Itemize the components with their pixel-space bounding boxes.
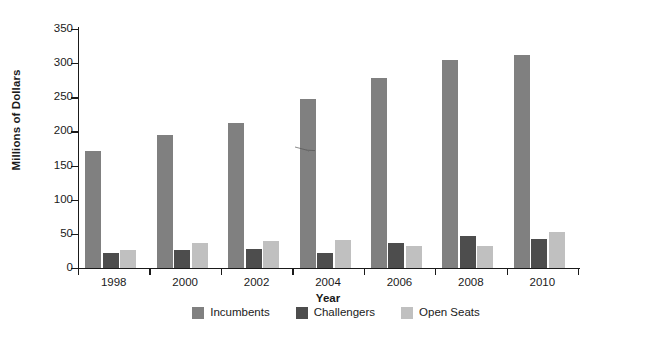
legend-item: Open Seats — [401, 307, 480, 319]
x-tick-label: 2004 — [315, 277, 341, 289]
bar — [514, 55, 530, 268]
legend-label: Challengers — [314, 307, 375, 319]
bar — [549, 232, 565, 268]
legend-item: Challengers — [296, 307, 375, 319]
y-tick-label: 150 — [54, 160, 73, 172]
bar — [477, 246, 493, 268]
bar — [120, 250, 136, 268]
bar — [460, 236, 476, 268]
bar — [157, 135, 173, 268]
x-tick-mark — [578, 268, 579, 275]
x-tick-mark — [507, 268, 508, 275]
x-tick-label: 2002 — [244, 277, 270, 289]
x-tick-mark — [364, 268, 365, 275]
chart-legend: IncumbentsChallengersOpen Seats — [0, 307, 672, 319]
x-tick-label: 1998 — [101, 277, 127, 289]
bar-chart-figure: Millions of Dollars 05010015020025030035… — [0, 0, 672, 344]
bar — [371, 78, 387, 268]
x-tick-label: 2010 — [529, 277, 555, 289]
x-axis-line — [78, 268, 580, 269]
bar — [442, 60, 458, 268]
bar — [85, 151, 101, 268]
bar — [406, 246, 422, 268]
bar — [335, 240, 351, 268]
bar — [103, 253, 119, 268]
x-tick-mark — [221, 268, 222, 275]
legend-swatch — [401, 307, 413, 319]
y-tick-label: 200 — [54, 126, 73, 138]
y-tick-label: 350 — [54, 23, 73, 35]
bar — [192, 243, 208, 268]
bar — [174, 250, 190, 268]
x-tick-mark — [149, 268, 150, 275]
legend-label: Incumbents — [210, 307, 269, 319]
bar — [388, 243, 404, 268]
y-tick-label: 100 — [54, 194, 73, 206]
x-axis-title: Year — [78, 292, 578, 304]
bar — [317, 253, 333, 268]
y-tick-label: 0 — [67, 262, 73, 274]
bar — [246, 249, 262, 268]
bar — [531, 239, 547, 268]
legend-label: Open Seats — [419, 307, 480, 319]
y-axis-title-text: Millions of Dollars — [10, 69, 22, 170]
x-tick-label: 2000 — [172, 277, 198, 289]
y-tick-label: 50 — [60, 228, 73, 240]
bar — [263, 241, 279, 268]
y-tick-label: 250 — [54, 92, 73, 104]
x-tick-mark — [78, 268, 79, 275]
x-tick-mark — [435, 268, 436, 275]
legend-item: Incumbents — [192, 307, 269, 319]
y-tick-label: 300 — [54, 57, 73, 69]
plot-area: 050100150200250300350 — [78, 29, 578, 268]
x-tick-mark — [292, 268, 293, 275]
legend-swatch — [192, 307, 204, 319]
legend-swatch — [296, 307, 308, 319]
x-tick-label: 2008 — [458, 277, 484, 289]
bar — [228, 123, 244, 268]
y-axis-title: Millions of Dollars — [6, 0, 26, 239]
bar — [300, 99, 316, 268]
x-tick-label: 2006 — [387, 277, 413, 289]
